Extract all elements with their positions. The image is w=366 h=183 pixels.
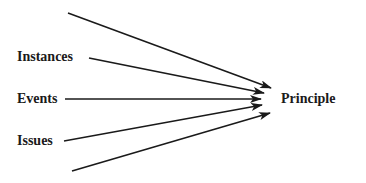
arrow-issues: [64, 105, 262, 141]
label-instances: Instances: [17, 50, 73, 64]
label-principle: Principle: [281, 92, 335, 106]
label-events: Events: [17, 92, 57, 106]
arrow-unlabeled-top: [68, 13, 271, 88]
label-issues: Issues: [17, 134, 53, 148]
convergence-diagram: Instances Events Issues Principle: [0, 0, 366, 183]
